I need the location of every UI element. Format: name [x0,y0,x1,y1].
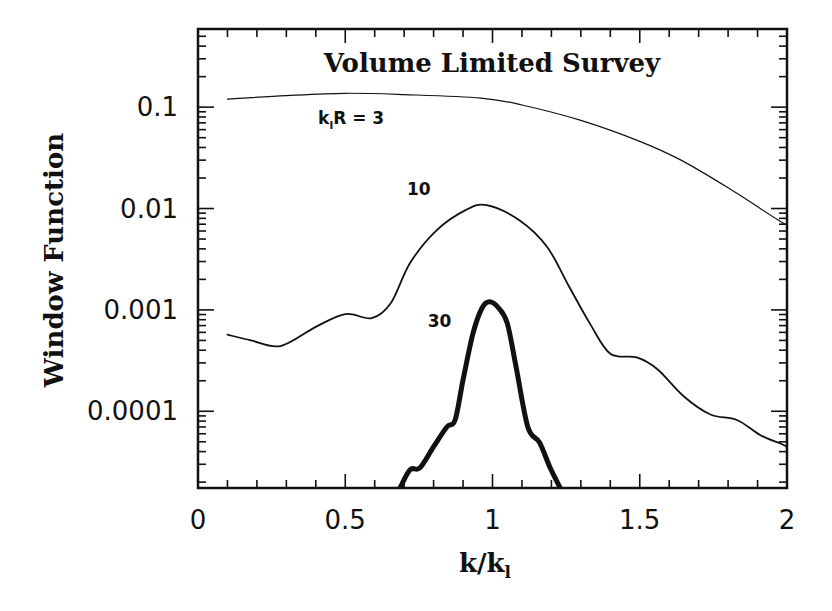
x-tick-label: 1 [484,505,501,535]
curve-3 [400,302,560,488]
x-tick-labels: 00.511.52 [190,505,796,535]
plot-border [198,29,787,488]
curves [227,93,787,488]
x-axis-label: k/kl [459,548,512,582]
axis-ticks [198,29,787,488]
curve-label-1: klR = 3 [318,108,384,132]
curve-1 [227,93,787,225]
x-tick-label: 1.5 [619,505,660,535]
x-tick-label: 0.5 [325,505,366,535]
x-axis-label-subscript: l [505,562,512,582]
y-tick-label: 0.01 [120,194,178,224]
plot-frame [198,29,787,488]
curve-labels: klR = 31030 [318,108,451,331]
curve-label-3: 30 [428,311,452,331]
x-tick-label: 2 [779,505,796,535]
chart-title: Volume Limited Survey [323,48,661,78]
curve-label-2: 10 [407,179,431,199]
window-function-chart: Volume Limited Survey 0.10.010.0010.0001… [0,0,832,611]
y-tick-label: 0.0001 [87,396,178,426]
y-axis-label: Window Function [39,133,69,388]
x-axis-label-main: k/k [459,548,506,578]
y-tick-label: 0.1 [137,92,178,122]
x-tick-label: 0 [190,505,207,535]
y-tick-labels: 0.10.010.0010.0001 [87,92,178,426]
y-tick-label: 0.001 [104,295,178,325]
